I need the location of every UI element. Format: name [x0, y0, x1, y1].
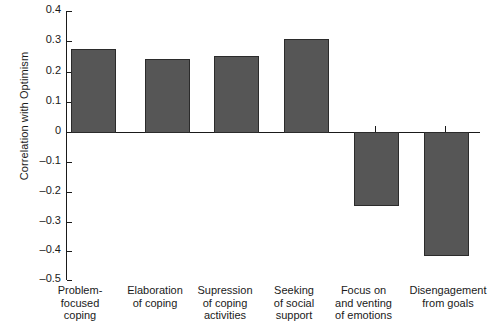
y-tick-mark	[67, 251, 72, 252]
y-tick-label: –0.3	[27, 214, 61, 226]
y-tick-mark	[67, 11, 72, 12]
bar-seeking-of-social-support	[284, 39, 329, 133]
y-tick-label: 0.1	[27, 94, 61, 106]
x-label-line: Problem-	[41, 284, 119, 297]
bar-problem-focused-coping	[71, 49, 116, 133]
x-label-line: Elaboration	[115, 284, 195, 297]
y-tick-label: 0	[27, 124, 61, 136]
y-tick-label: 0.2	[27, 64, 61, 76]
bar-disengagement-from-goals	[424, 132, 469, 256]
x-label-disengagement-from-goals: Disengagement from goals	[402, 284, 494, 309]
x-label-line: of emotions	[321, 309, 406, 322]
y-tick-label: –0.4	[27, 243, 61, 255]
plot-area: 0.4 0.3 0.2 0.1 0 –0.1 –0.2 –0.3	[66, 11, 480, 280]
y-tick-label: 0.3	[27, 33, 61, 45]
x-label-line: of coping	[115, 297, 195, 310]
y-tick-mark	[67, 41, 72, 42]
x-label-line: coping	[41, 309, 119, 322]
y-tick-label: –0.5	[27, 272, 61, 284]
y-tick-mark	[67, 222, 72, 223]
x-label-line: activities	[185, 309, 265, 322]
y-tick-mark	[67, 162, 72, 163]
x-label-line: of coping	[185, 297, 265, 310]
y-tick-mark	[67, 192, 72, 193]
y-tick-label: –0.2	[27, 184, 61, 196]
bar-supression-of-coping-activities	[214, 56, 259, 133]
y-axis-line	[66, 11, 67, 280]
x-label-line: Disengagement	[402, 284, 494, 297]
y-tick-label: 0.4	[27, 3, 61, 15]
y-tick-label: –0.1	[27, 154, 61, 166]
bar-focus-on-and-venting-of-emotions	[354, 132, 399, 206]
y-tick-mark	[67, 280, 72, 281]
x-label-supression-of-coping-activities: Supression of coping activities	[185, 284, 265, 322]
x-label-line: focused	[41, 297, 119, 310]
x-label-line: Focus on	[321, 284, 406, 297]
bar-chart: Correlation with Optimism 0.4 0.3 0.2 0.…	[0, 0, 494, 328]
bar-elaboration-of-coping	[145, 59, 190, 133]
x-label-line: and venting	[321, 297, 406, 310]
x-label-line: Supression	[185, 284, 265, 297]
x-axis-line	[66, 132, 480, 133]
x-label-focus-on-and-venting-of-emotions: Focus on and venting of emotions	[321, 284, 406, 322]
x-label-elaboration-of-coping: Elaboration of coping	[115, 284, 195, 309]
x-label-line: from goals	[402, 297, 494, 310]
x-label-problem-focused-coping: Problem- focused coping	[41, 284, 119, 322]
